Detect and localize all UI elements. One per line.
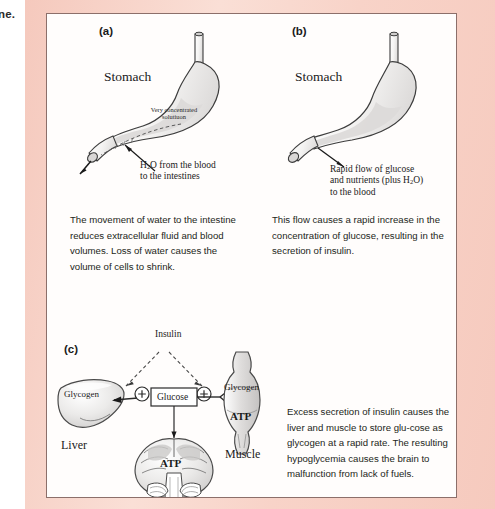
diagram-insulin-label: Insulin — [155, 329, 181, 339]
figure-content-area: (a) Stomach — [47, 14, 456, 497]
diagram-muscle-glycogen-label: Glycogen — [224, 382, 259, 392]
panel-a-inline-label: Very concentrated solutiuon — [133, 106, 215, 121]
panel-b-caption: Rapid flow of glucoseand nutrients (plus… — [330, 164, 423, 198]
diagram-liver-glycogen-label: Glycogen — [64, 389, 99, 399]
figure-page: ne. (a) Stomach — [0, 0, 495, 509]
diagram-brain-atp-label: ATP — [160, 457, 181, 469]
left-edge-cutoff-text: ne. — [0, 8, 15, 20]
panel-a-paragraph: The movement of water to the intestine r… — [70, 212, 245, 274]
diagram-muscle-label: Muscle — [225, 447, 260, 462]
diagram-glucose-box-label: Glucose — [157, 392, 188, 402]
panel-a-caption: H2O from the bloodto the intestines — [140, 160, 216, 183]
panel-b-paragraph: This flow causes a rapid increase in the… — [272, 212, 452, 259]
diagram-muscle-atp-label: ATP — [230, 410, 251, 422]
panel-b-stomach-illustration — [272, 28, 452, 178]
panel-c-paragraph: Excess secretion of insulin causes the l… — [287, 404, 455, 482]
diagram-liver-label: Liver — [61, 438, 87, 453]
panel-a-stomach-illustration — [77, 28, 262, 178]
panel-a-inline-label-line1: Very concentrated — [151, 106, 197, 113]
panel-a-inline-label-line2: solutiuon — [162, 113, 186, 120]
diagram-brain-label: Brain — [158, 496, 185, 497]
